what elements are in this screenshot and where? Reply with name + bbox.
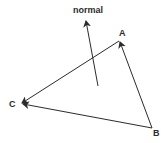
vertex-label-b: B — [153, 128, 160, 138]
edge-a-to-c — [22, 41, 119, 103]
edge-b-to-c — [23, 104, 152, 128]
vertex-label-a: A — [119, 28, 126, 38]
vertex-label-c: C — [9, 99, 16, 109]
normal-vector — [86, 21, 98, 86]
triangle-normal-diagram: normal A B C — [0, 0, 166, 143]
normal-label: normal — [73, 5, 103, 15]
edge-b-to-a — [120, 42, 152, 128]
diagram-canvas — [0, 0, 166, 143]
